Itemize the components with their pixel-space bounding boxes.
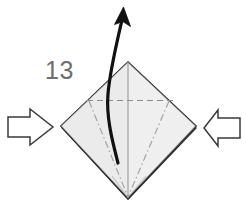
origami-diagram-canvas: 13 [0,0,246,204]
right-push-arrow-shape [204,110,240,146]
left-push-arrow [8,109,53,145]
step-number: 13 [45,56,74,84]
right-panel-shading [128,62,196,198]
folded-paper-diamond [61,62,197,200]
origami-step-diagram: 13 [0,0,246,204]
left-push-arrow-shape [8,109,53,145]
right-push-arrow [204,110,240,146]
